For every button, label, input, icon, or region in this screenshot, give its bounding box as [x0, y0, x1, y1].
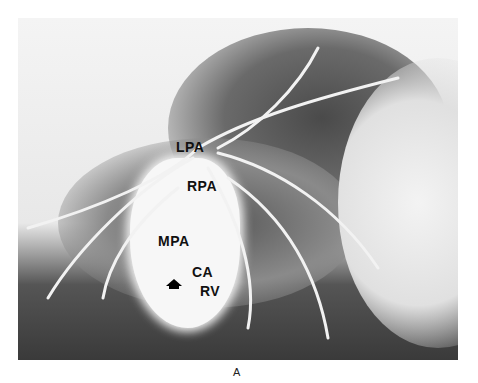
label-ca: CA: [192, 264, 213, 280]
label-lpa: LPA: [176, 139, 204, 155]
label-rpa: RPA: [187, 178, 217, 194]
vessel-branches: [18, 18, 458, 360]
label-mpa: MPA: [158, 233, 190, 249]
arrow-icon: [166, 279, 182, 286]
label-rv: RV: [200, 283, 220, 299]
angiogram-image: [18, 18, 458, 360]
figure-caption: A: [233, 366, 240, 378]
